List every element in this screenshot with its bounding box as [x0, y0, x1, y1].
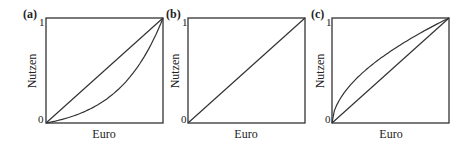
- plots-canvas: [0, 0, 470, 148]
- series-linear-b: [188, 18, 305, 123]
- series-linear-a: [46, 18, 163, 123]
- series-linear-c: [332, 18, 449, 123]
